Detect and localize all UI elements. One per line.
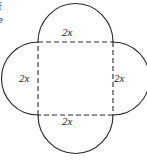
label-bottom-text: 2x — [62, 115, 72, 127]
label-bottom-side: 2x — [62, 116, 72, 127]
geometry-figure: f e 2x 2x 2x 2x — [0, 0, 147, 163]
bottom-petal-arc — [38, 115, 113, 154]
top-petal-arc — [38, 4, 113, 43]
label-right-side: 2x — [114, 73, 124, 84]
label-top-text: 2x — [62, 26, 72, 38]
label-left-text: 2x — [19, 72, 29, 84]
label-top-side: 2x — [62, 27, 72, 38]
label-right-text: 2x — [114, 72, 124, 84]
label-left-side: 2x — [19, 73, 29, 84]
